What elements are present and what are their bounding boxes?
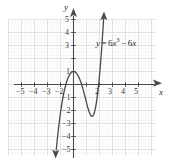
graph-figure: −5 −4 −3 −2 2 3 4 5 5 4 3 1 −1 −2 −3 −4 … <box>0 0 170 165</box>
y-tick-label-minus1: −1 <box>62 94 71 102</box>
y-tick-label-4: 4 <box>65 29 69 37</box>
y-axis <box>70 8 77 158</box>
equation-minus: − <box>121 38 126 48</box>
x-tick-label-2: 2 <box>95 88 99 96</box>
x-tick-label-4: 4 <box>121 88 125 96</box>
equation-lhs: y <box>96 38 100 48</box>
coordinate-plane-svg <box>0 0 170 165</box>
y-tick-label-minus5: −5 <box>62 146 71 154</box>
y-tick-label-3: 3 <box>65 42 69 50</box>
x-tick-label-5: 5 <box>134 88 138 96</box>
y-axis-label: y <box>64 3 68 12</box>
x-axis-label: x <box>159 88 163 97</box>
equation-exponent: 3 <box>117 37 120 43</box>
x-tick-label-minus4: −4 <box>29 88 38 96</box>
equation-variable2: x <box>132 38 136 48</box>
x-axis <box>14 80 162 87</box>
x-tick-label-minus5: −5 <box>16 88 25 96</box>
x-tick-label-3: 3 <box>108 88 112 96</box>
y-tick-label-minus3: −3 <box>62 120 71 128</box>
y-tick-label-minus2: −2 <box>62 107 71 115</box>
x-tick-label-minus3: −3 <box>42 88 51 96</box>
y-tick-label-minus4: −4 <box>62 133 71 141</box>
y-tick-label-1: 1 <box>66 68 70 76</box>
equation-annotation: y=6x3−6x <box>96 39 136 48</box>
equation-equals: = <box>102 38 107 48</box>
y-tick-label-5: 5 <box>65 16 69 24</box>
